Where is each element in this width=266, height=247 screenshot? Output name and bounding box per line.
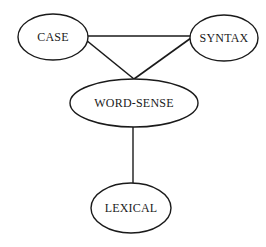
diagram-canvas: CASE SYNTAX WORD-SENSE LEXICAL <box>0 0 266 247</box>
edge-case-word-sense <box>86 40 134 79</box>
node-case-label: CASE <box>37 30 68 45</box>
edge-syntax-word-sense <box>134 38 191 79</box>
node-word-sense-label: WORD-SENSE <box>94 96 173 111</box>
node-syntax-label: SYNTAX <box>200 31 249 46</box>
node-lexical-label: LEXICAL <box>105 201 158 216</box>
